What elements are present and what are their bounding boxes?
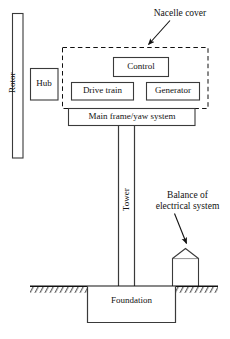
balance-callout-line-2: electrical system <box>156 201 220 211</box>
drive-train-label: Drive train <box>71 86 134 95</box>
main-frame-label: Main frame/yaw system <box>68 112 196 121</box>
balance-callout-label: Balance of electrical system <box>145 190 230 211</box>
nacelle-cover-callout-label: Nacelle cover <box>133 8 227 19</box>
tower-label: Tower <box>122 177 131 223</box>
balance-shed-body <box>173 259 199 287</box>
foundation-label: Foundation <box>87 296 176 305</box>
hub-label: Hub <box>30 79 58 88</box>
diagram-canvas <box>0 0 230 339</box>
generator-label: Generator <box>146 86 200 95</box>
nacelle-cover-arrow <box>149 21 171 45</box>
wind-turbine-diagram: Rotor Hub Control Drive train Generator … <box>0 0 230 339</box>
balance-arrow <box>175 214 187 244</box>
caption-stub <box>36 331 201 339</box>
balance-callout-line-1: Balance of <box>167 190 208 200</box>
rotor-label: Rotor <box>8 60 17 106</box>
balance-shed-roof <box>173 249 199 259</box>
control-label: Control <box>113 62 169 71</box>
